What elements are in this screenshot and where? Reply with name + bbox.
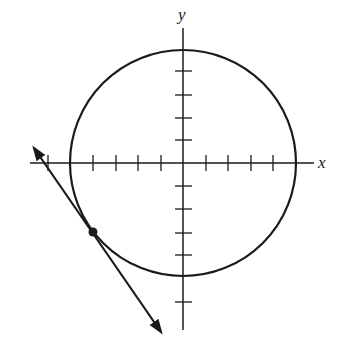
y-axis-label: y [176,5,186,24]
x-axis-label: x [317,153,326,172]
tangent-line [34,148,161,332]
circle-tangent-diagram: x y [0,0,344,346]
tangent-point [89,228,98,237]
